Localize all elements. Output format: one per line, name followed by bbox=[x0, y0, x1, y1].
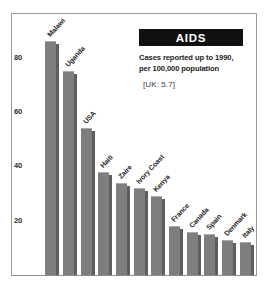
bar bbox=[45, 41, 56, 275]
bar-group: Malawi bbox=[45, 14, 56, 275]
bar bbox=[81, 128, 92, 275]
bar bbox=[187, 232, 198, 275]
bar bbox=[98, 172, 109, 275]
chart-page: 20406080 MalawiUgandaUSAHaitiZaireIvory … bbox=[0, 0, 270, 292]
bar bbox=[116, 183, 127, 275]
page-title: AIDS bbox=[176, 32, 207, 44]
bar-category-label: Zaire bbox=[117, 163, 133, 180]
bar bbox=[222, 240, 233, 275]
bar bbox=[169, 226, 180, 275]
bar-category-label: USA bbox=[82, 110, 97, 125]
chart-subtitle-line1: Cases reported up to 1990, bbox=[139, 53, 247, 64]
bar-group: Haiti bbox=[98, 14, 109, 275]
bar bbox=[151, 196, 162, 275]
bar-group: USA bbox=[81, 14, 92, 275]
title-box: AIDS bbox=[139, 29, 243, 46]
bar-group: Uganda bbox=[63, 14, 74, 275]
bar bbox=[134, 188, 145, 275]
bar bbox=[204, 234, 215, 275]
bar-category-label: Haiti bbox=[99, 153, 114, 169]
chart-annotation: [UK: 5.7] bbox=[143, 80, 175, 89]
chart-subtitle: Cases reported up to 1990, per 100,000 p… bbox=[139, 53, 247, 74]
bar-category-label: Spain bbox=[205, 213, 223, 231]
bar-category-label: Italy bbox=[241, 225, 255, 240]
bar bbox=[240, 242, 251, 275]
chart-subtitle-line2: per 100,000 population bbox=[139, 64, 247, 75]
x-axis-baseline bbox=[12, 275, 256, 276]
bar-group: Zaire bbox=[116, 14, 127, 275]
bar bbox=[63, 71, 74, 275]
